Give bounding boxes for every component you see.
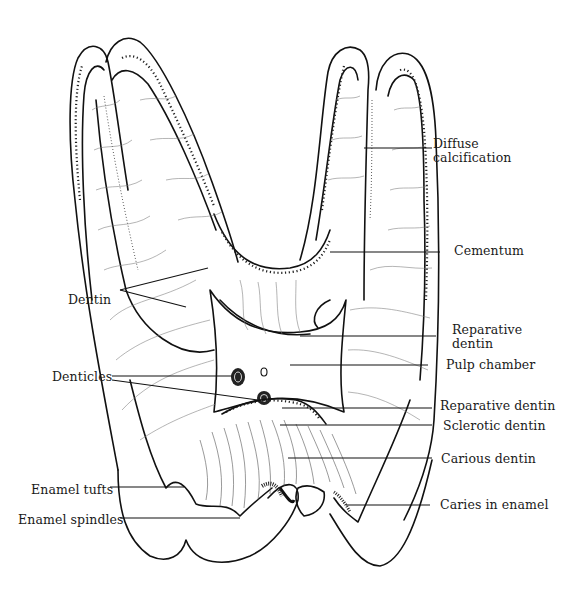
label-enamel-spindles: Enamel spindles: [18, 513, 124, 527]
right-root-interradicular-dashes: [370, 100, 372, 220]
left-inner-root-outline: [106, 38, 238, 262]
label-reparative-dentin-upper: Reparative dentin: [452, 323, 522, 351]
right-outer-root-outline: [376, 53, 439, 520]
label-diffuse-calcification: Diffuse calcification: [433, 137, 511, 165]
right-inner-root-outline: [300, 47, 369, 300]
dej-right: [334, 400, 410, 522]
left-outer-root-cementum-dots: [76, 66, 82, 200]
right-inner-root-canal: [316, 67, 358, 240]
dentino-enamel-junction: [130, 380, 272, 516]
label-cementum: Cementum: [454, 244, 524, 258]
denticle-3: [261, 368, 267, 376]
left-root-canal-dashes: [104, 96, 138, 270]
sclerotic-dentin-striations: [200, 420, 356, 508]
pulp-chamber-outline: [210, 290, 346, 412]
label-denticles: Denticles: [52, 370, 112, 384]
denticle-1: [231, 368, 245, 386]
label-dentin: Dentin: [68, 293, 111, 307]
caries-cavity-fragment: [296, 486, 324, 516]
label-reparative-dentin-upper-line2: dentin: [452, 337, 522, 351]
crown-right-cusp: [330, 460, 432, 566]
leader-dentin-1: [120, 268, 208, 290]
label-reparative-dentin-lower: Reparative dentin: [440, 399, 555, 413]
label-pulp-chamber: Pulp chamber: [446, 358, 535, 372]
label-sclerotic-dentin: Sclerotic dentin: [443, 419, 546, 433]
left-outer-root-inner-line: [82, 66, 104, 300]
label-diffuse-calcification-line1: Diffuse: [433, 137, 511, 151]
label-carious-dentin: Carious dentin: [441, 452, 536, 466]
left-inner-root-cementum-dots: [122, 56, 214, 206]
label-diffuse-calcification-line2: calcification: [433, 151, 511, 165]
reparative-dentin-lower-outline: [222, 399, 326, 424]
label-enamel-tufts: Enamel tufts: [31, 483, 113, 497]
caries-dark-edge: [280, 488, 294, 502]
label-reparative-dentin-upper-line1: Reparative: [452, 323, 522, 337]
tooth-diagram: Diffuse calcification Cementum Dentin Re…: [0, 0, 563, 592]
label-caries-in-enamel: Caries in enamel: [440, 498, 549, 512]
left-root-canal-wall: [96, 100, 214, 352]
